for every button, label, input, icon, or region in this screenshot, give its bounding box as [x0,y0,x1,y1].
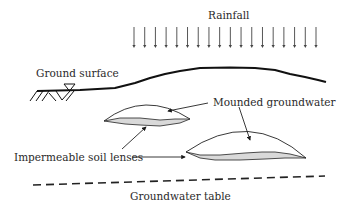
rain-arrowhead-icon [261,45,264,48]
rain-arrowhead-icon [132,45,135,48]
groundwater-table-line [33,176,325,185]
rain-arrowhead-icon [293,45,296,48]
groundwater-table-label: Groundwater table [130,191,231,202]
rain-arrowhead-icon [154,45,157,48]
rain-arrowhead-icon [272,45,275,48]
impermeable-soil-lenses-label: Impermeable soil lenses [14,152,143,163]
rain-arrowhead-icon [207,45,210,48]
lens-leader-upper [122,127,146,149]
lower-groundwater-mound [186,131,306,160]
rain-arrowhead-icon [197,45,200,48]
rain-arrowhead-icon [304,45,307,48]
ground-surface-label: Ground surface [36,68,119,79]
rain-arrowhead-icon [143,45,146,48]
rain-arrowhead-icon [175,45,178,48]
rain-arrowhead-icon [314,45,317,48]
mounded-leader-lower [239,107,250,140]
rain-arrowhead-icon [186,45,189,48]
rain-arrowhead-icon [165,45,168,48]
rain-arrowhead-icon [218,45,221,48]
upper-groundwater-mound [104,105,190,126]
rain-arrowhead-icon [250,45,253,48]
ground-hatch-icon [30,91,74,101]
mounded-leader-upper [168,103,208,111]
rainfall-label: Rainfall [208,10,249,21]
upper-soil-lens [104,118,190,126]
rain-arrowhead-icon [229,45,232,48]
rain-arrowhead-icon [239,45,242,48]
mounded-groundwater-label: Mounded groundwater [213,97,336,108]
rainfall-arrows [132,27,317,48]
rain-arrowhead-icon [282,45,285,48]
groundwater-diagram: Rainfall Ground surface Mounded groundwa… [0,0,342,211]
lower-soil-lens [186,152,306,160]
